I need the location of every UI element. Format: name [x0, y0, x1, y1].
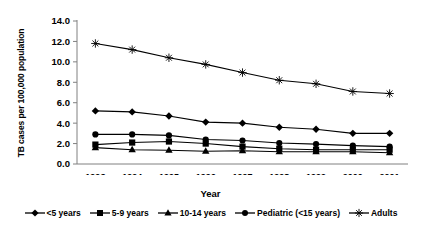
chart-figure: TB cases per 100,000 population 0.02.04.…: [0, 0, 421, 234]
data-point: [313, 141, 319, 147]
x-tick-label: 1994: [122, 172, 142, 175]
data-point: [386, 130, 393, 137]
y-tick-label: 10.0: [52, 56, 71, 67]
x-tick-label: 1999: [306, 172, 326, 175]
data-point: [350, 143, 356, 149]
data-point: [203, 136, 209, 142]
data-point: [312, 126, 319, 133]
data-point: [165, 146, 172, 152]
data-series-group: [91, 39, 394, 155]
data-point: [276, 124, 283, 131]
chart-canvas: 0.02.04.06.08.010.012.014.0 199319941995…: [32, 10, 412, 175]
x-tick-label: 1997: [232, 172, 252, 175]
data-point: [128, 108, 135, 115]
data-point: [166, 138, 172, 144]
data-point: [239, 119, 246, 126]
data-point: [275, 76, 283, 84]
y-tick-label: 0.0: [57, 158, 70, 169]
data-point: [165, 112, 172, 119]
x-tick-label: 2000: [343, 172, 363, 175]
data-point: [91, 39, 99, 47]
data-point: [349, 87, 357, 95]
data-point: [239, 137, 245, 143]
y-tick-label: 8.0: [57, 77, 70, 88]
legend-marker-diamond-icon: [24, 208, 46, 218]
data-point: [312, 80, 320, 88]
data-point: [276, 140, 282, 146]
data-point: [165, 54, 173, 62]
x-tick-label: 1995: [159, 172, 179, 175]
data-point: [202, 60, 210, 68]
y-tick-label: 6.0: [57, 97, 70, 108]
x-axis-title: Year: [0, 188, 421, 199]
data-point: [92, 107, 99, 114]
legend-label: 10-14 years: [180, 208, 226, 218]
legend-marker-asterisk-icon: [348, 208, 370, 218]
data-point: [387, 144, 393, 150]
y-axis: 0.02.04.06.08.010.012.014.0: [52, 15, 78, 169]
data-point: [349, 130, 356, 137]
x-axis: 199319941995199619971998199920002001: [77, 164, 408, 175]
legend-marker-circle-icon: [234, 208, 256, 218]
data-point: [92, 131, 98, 137]
legend-marker-triangle-icon: [157, 208, 179, 218]
legend-marker-square-icon: [89, 208, 111, 218]
data-point: [128, 146, 135, 152]
data-point: [385, 89, 393, 97]
legend-label: Adults: [371, 208, 397, 218]
legend-item-pediatric-15-years[interactable]: Pediatric (<15 years): [234, 208, 340, 218]
series-5-years: [92, 107, 394, 137]
legend-item-10-14-years[interactable]: 10-14 years: [157, 208, 226, 218]
y-tick-label: 14.0: [52, 15, 71, 26]
x-tick-label: 2001: [380, 172, 400, 175]
y-tick-label: 4.0: [57, 118, 70, 129]
x-tick-label: 1996: [196, 172, 216, 175]
data-point: [129, 131, 135, 137]
data-point: [128, 45, 136, 53]
data-point: [129, 139, 135, 145]
legend-item-5-9-years[interactable]: 5-9 years: [89, 208, 149, 218]
data-point: [166, 132, 172, 138]
plot-area: 0.02.04.06.08.010.012.014.0 199319941995…: [32, 10, 412, 175]
legend-item-5-years[interactable]: <5 years: [24, 208, 81, 218]
chart-legend: <5 years5-9 years10-14 yearsPediatric (<…: [0, 208, 421, 218]
y-axis-title: TB cases per 100,000 population: [14, 18, 28, 168]
x-tick-label: 1993: [85, 172, 105, 175]
series-adults: [91, 39, 394, 97]
data-point: [202, 118, 209, 125]
legend-label: 5-9 years: [112, 208, 149, 218]
data-point: [202, 147, 209, 153]
y-tick-label: 2.0: [57, 138, 70, 149]
legend-label: Pediatric (<15 years): [257, 208, 340, 218]
y-tick-label: 12.0: [52, 36, 71, 47]
legend-label: <5 years: [47, 208, 81, 218]
x-tick-label: 1998: [269, 172, 289, 175]
legend-item-adults[interactable]: Adults: [348, 208, 397, 218]
data-point: [238, 68, 246, 76]
